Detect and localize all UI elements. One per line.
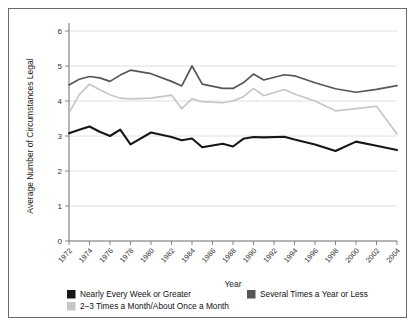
chart-plot-area: 0123456197219741976197819801982198419861… xyxy=(9,9,408,319)
series-line-2 xyxy=(69,66,397,92)
x-tick-label: 1986 xyxy=(200,246,218,264)
y-tick-label: 5 xyxy=(58,62,63,71)
x-tick-label: 1992 xyxy=(261,246,279,264)
legend-label-1: Several Times a Year or Less xyxy=(260,289,368,299)
y-axis-title: Average Number of Circumstances Legal xyxy=(25,58,35,213)
x-tick-label: 1972 xyxy=(56,246,74,264)
y-tick-label: 0 xyxy=(58,237,63,246)
legend-label-0: Nearly Every Week or Greater xyxy=(80,289,191,299)
x-tick-label: 1990 xyxy=(241,246,259,264)
x-tick-label: 1982 xyxy=(159,246,177,264)
x-tick-label: 1984 xyxy=(179,246,197,264)
x-tick-label: 1998 xyxy=(323,246,341,264)
x-tick-label: 1994 xyxy=(282,246,300,264)
y-tick-label: 4 xyxy=(58,97,63,106)
x-tick-label: 2000 xyxy=(343,246,361,264)
y-tick-label: 2 xyxy=(58,167,63,176)
x-axis-title: Year xyxy=(224,279,241,289)
x-tick-label: 1978 xyxy=(118,246,136,264)
x-tick-label: 1996 xyxy=(302,246,320,264)
series-line-0 xyxy=(69,127,397,152)
chart-frame: 0123456197219741976197819801982198419861… xyxy=(8,8,407,318)
legend-label-2: 2–3 Times a Month/About Once a Month xyxy=(80,301,229,311)
x-tick-label: 1974 xyxy=(77,246,95,264)
line-chart: 0123456197219741976197819801982198419861… xyxy=(9,9,408,319)
x-tick-label: 1976 xyxy=(97,246,115,264)
y-tick-label: 6 xyxy=(58,27,63,36)
x-tick-label: 2002 xyxy=(364,246,382,264)
x-tick-label: 1980 xyxy=(138,246,156,264)
x-tick-label: 2004 xyxy=(384,246,402,264)
x-tick-label: 1988 xyxy=(220,246,238,264)
y-tick-label: 3 xyxy=(58,132,63,141)
y-tick-label: 1 xyxy=(58,202,63,211)
